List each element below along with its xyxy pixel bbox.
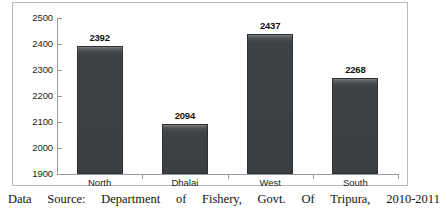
caption-word: Data [8, 191, 32, 207]
figure-caption: DataSource:DepartmentofFishery,Govt.OfTr… [8, 191, 440, 207]
category-label-west: West [235, 177, 305, 188]
x-axis-tick [313, 175, 314, 179]
caption-word: Of [301, 191, 314, 207]
y-axis-tick-label-text: 2000 [19, 143, 53, 153]
caption-word: Fishery, [202, 191, 242, 207]
y-axis-tick [58, 174, 62, 175]
y-axis-tick-label-text: 2200 [19, 91, 53, 101]
caption-word: Department [101, 191, 160, 207]
bar-value-label-south: 2268 [325, 65, 385, 75]
y-axis-tick [58, 148, 62, 149]
caption-word: of [176, 191, 186, 207]
bar-west [247, 34, 293, 174]
caption-word: Tripura, [330, 191, 370, 207]
y-axis-tick-label: 1900 [17, 169, 53, 179]
y-axis-tick-label: 2100 [17, 117, 53, 127]
y-axis-tick [58, 122, 62, 123]
category-label-dhalai: Dhalai [150, 177, 220, 188]
y-axis-tick-label-text: 2400 [19, 39, 53, 49]
caption-word: Govt. [258, 191, 286, 207]
y-axis-tick-label: 2400 [17, 39, 53, 49]
bar-dhalai [162, 124, 208, 174]
figure: 2500240023002200210020001900 23922094243… [0, 0, 447, 215]
bar-value-label-west: 2437 [240, 21, 300, 31]
category-label-south: South [320, 177, 390, 188]
y-axis-tick-label: 2200 [17, 91, 53, 101]
x-axis-tick [228, 175, 229, 179]
bar-north [77, 46, 123, 174]
y-axis-tick [58, 96, 62, 97]
bar-value-label-dhalai: 2094 [155, 111, 215, 121]
x-axis-tick [398, 175, 399, 179]
y-axis-tick [58, 70, 62, 71]
chart-frame: 2500240023002200210020001900 23922094243… [12, 2, 408, 186]
caption-word: 2010-2011 [386, 191, 440, 207]
y-axis-tick-label-text: 2500 [19, 13, 53, 23]
y-axis-tick [58, 44, 62, 45]
y-axis-tick-label: 2000 [17, 143, 53, 153]
y-axis-tick-label-text: 2300 [19, 65, 53, 75]
y-axis-tick-label-text: 2100 [19, 117, 53, 127]
x-axis-tick [142, 175, 143, 179]
y-axis-tick-label-text: 1900 [19, 169, 53, 179]
y-axis-tick [58, 18, 62, 19]
bar-value-label-north: 2392 [70, 33, 130, 43]
caption-word: Source: [47, 191, 85, 207]
y-axis-tick-label: 2500 [17, 13, 53, 23]
category-label-north: North [65, 177, 135, 188]
y-axis-tick-label: 2300 [17, 65, 53, 75]
bar-south [332, 78, 378, 174]
